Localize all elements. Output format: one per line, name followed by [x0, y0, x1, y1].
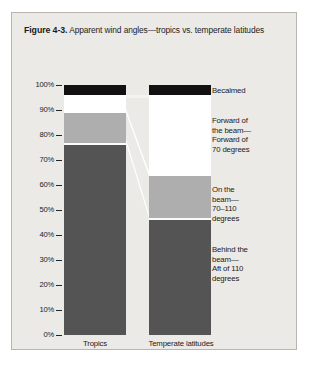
legend-on-beam-line3: 70–110	[212, 204, 294, 214]
legend-forward-line2: the beam—	[212, 126, 294, 136]
legend-entry-on-beam: On the beam— 70–110 degrees	[212, 185, 294, 223]
chart-plot-area: 100% 90% 80% 70% 60% 50% 40% 30%	[12, 13, 298, 351]
figure-panel: Figure 4-3. Apparent wind angles—tropics…	[11, 12, 297, 350]
y-tick-mark-80	[56, 135, 62, 136]
y-tick-mark-40	[56, 235, 62, 236]
y-tick-label-90: 90%	[12, 105, 54, 114]
legend-behind-line2: beam—	[212, 255, 294, 265]
legend-behind-line1: Behind the	[212, 245, 294, 255]
bar-temperate-segment-forward[interactable]	[149, 95, 211, 176]
y-tick-label-80: 80%	[12, 130, 54, 139]
legend-becalmed-line1: Becalmed	[212, 86, 294, 96]
bar-tropics-segment-becalmed[interactable]	[64, 85, 126, 95]
y-tick-label-10: 10%	[12, 305, 54, 314]
y-tick-label-40: 40%	[12, 230, 54, 239]
legend-entry-becalmed: Becalmed	[212, 86, 294, 96]
y-tick-label-100: 100%	[12, 80, 54, 89]
bar-tropics[interactable]	[64, 85, 126, 335]
y-tick-label-50: 50%	[12, 205, 54, 214]
y-tick-label-30: 30%	[12, 255, 54, 264]
y-tick-label-20: 20%	[12, 280, 54, 289]
x-axis-label-tropics: Tropics	[64, 339, 126, 348]
x-axis-label-temperate: Temperate latitudes	[135, 339, 227, 348]
legend-on-beam-line4: degrees	[212, 214, 294, 224]
y-tick-mark-60	[56, 185, 62, 186]
y-tick-mark-70	[56, 160, 62, 161]
legend-behind-line3: Aft of 110	[212, 264, 294, 274]
legend-on-beam-line2: beam—	[212, 195, 294, 205]
y-tick-mark-30	[56, 260, 62, 261]
legend-forward-line3: Forward of	[212, 135, 294, 145]
legend-forward-line1: Forward of	[212, 116, 294, 126]
legend-entry-behind: Behind the beam— Aft of 110 degrees	[212, 245, 294, 283]
y-tick-mark-0	[56, 335, 62, 336]
y-tick-mark-50	[56, 210, 62, 211]
bar-tropics-segment-behind[interactable]	[64, 145, 126, 335]
bar-temperate-segment-on-beam[interactable]	[149, 176, 211, 218]
legend-forward-line4: 70 degrees	[212, 145, 294, 155]
bar-temperate-segment-becalmed[interactable]	[149, 85, 211, 95]
y-tick-mark-20	[56, 285, 62, 286]
y-tick-label-60: 60%	[12, 180, 54, 189]
y-tick-label-70: 70%	[12, 155, 54, 164]
legend-on-beam-line1: On the	[212, 185, 294, 195]
y-tick-mark-90	[56, 110, 62, 111]
y-tick-label-0: 0%	[12, 330, 54, 339]
bar-tropics-segment-on-beam[interactable]	[64, 113, 126, 143]
y-tick-mark-10	[56, 310, 62, 311]
y-tick-mark-100	[56, 85, 62, 86]
legend-entry-forward: Forward of the beam— Forward of 70 degre…	[212, 116, 294, 154]
bar-temperate-latitudes[interactable]	[149, 85, 211, 335]
bar-temperate-segment-behind[interactable]	[149, 220, 211, 335]
legend-behind-line4: degrees	[212, 274, 294, 284]
bar-tropics-segment-forward[interactable]	[64, 95, 126, 113]
